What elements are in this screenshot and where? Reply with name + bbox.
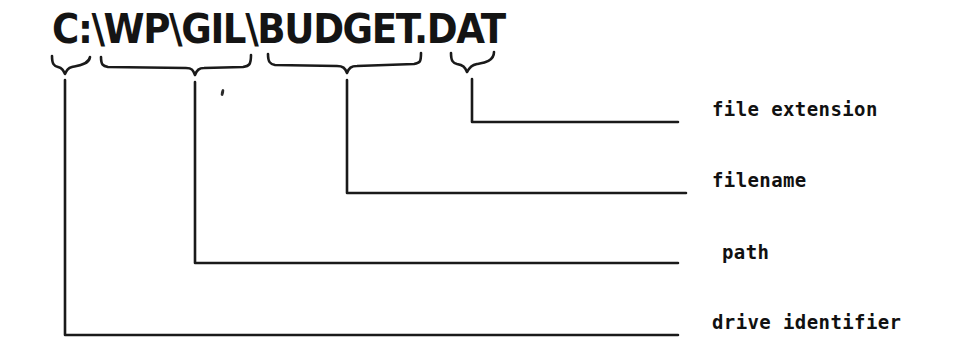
label-filename: filename bbox=[712, 169, 807, 191]
leader-line-path bbox=[195, 82, 678, 263]
label-file-extension: file extension bbox=[712, 98, 878, 120]
brace-drive-identifier bbox=[52, 56, 90, 74]
brace-path bbox=[101, 55, 251, 75]
label-drive-identifier: drive identifier bbox=[712, 311, 901, 333]
leader-line-file-extension bbox=[472, 79, 678, 122]
brace-and-leader-lines bbox=[0, 0, 970, 356]
dos-path-anatomy-diagram: C:\WP\GIL\BUDGET.DAT file extension file… bbox=[0, 0, 970, 356]
brace-file-extension bbox=[451, 52, 494, 72]
label-path: path bbox=[722, 241, 769, 263]
leader-line-drive-identifier bbox=[65, 80, 678, 335]
brace-filename bbox=[268, 53, 421, 73]
leader-line-filename bbox=[347, 80, 686, 193]
